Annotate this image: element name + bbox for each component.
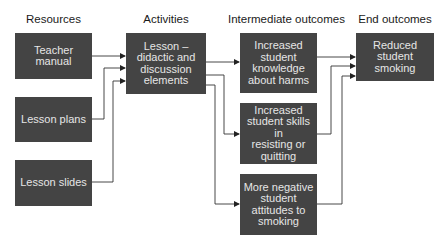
box-label: Lesson plans	[21, 114, 86, 126]
box-lesson-plans: Lesson plans	[15, 97, 92, 142]
box-label: Increased student skills in resisting or…	[243, 105, 314, 163]
box-label: Teacher manual	[34, 45, 73, 68]
box-label: Reduced student smoking	[373, 40, 417, 75]
box-label: More negative student attitudes to smoki…	[244, 182, 314, 228]
box-lesson: Lesson – didactic and discussion element…	[126, 33, 206, 94]
box-knowledge-about-harms: Increased student knowledge about harms	[240, 33, 317, 93]
box-reduced-smoking: Reduced student smoking	[356, 33, 434, 81]
box-negative-attitudes: More negative student attitudes to smoki…	[240, 174, 317, 235]
box-label: Lesson slides	[20, 177, 87, 189]
box-lesson-slides: Lesson slides	[15, 160, 92, 206]
box-skills-resisting-quitting: Increased student skills in resisting or…	[240, 103, 317, 164]
box-label: Lesson – didactic and discussion element…	[137, 41, 196, 87]
box-label: Increased student knowledge about harms	[248, 40, 309, 86]
box-teacher-manual: Teacher manual	[15, 33, 92, 79]
